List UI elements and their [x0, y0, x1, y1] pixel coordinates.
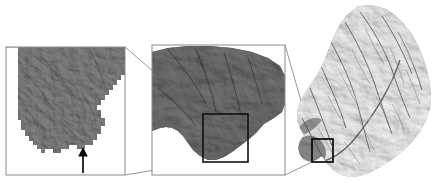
figure-canvas [0, 0, 440, 189]
pixel-scale-detail-panel [6, 40, 131, 182]
subbasin-detail-panel [150, 42, 288, 178]
nested-zoom-figure [0, 0, 440, 189]
